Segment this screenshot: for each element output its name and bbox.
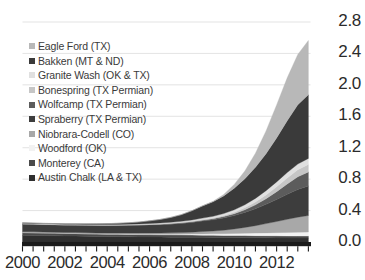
- x-axis-tick-label: 2004: [83, 253, 131, 272]
- y-axis-tick-label: 1.2: [317, 137, 361, 157]
- legend-item-label: Bonespring (TX Permian): [38, 83, 153, 98]
- legend-item: Woodford (OK): [29, 141, 201, 156]
- legend-item: Granite Wash (OK & TX): [29, 68, 201, 83]
- legend-swatch-icon: [29, 43, 35, 49]
- legend-swatch-icon: [29, 72, 35, 78]
- legend-item: Spraberry (TX Permian): [29, 112, 201, 127]
- legend-item: Niobrara-Codell (CO): [29, 127, 201, 142]
- legend-item-label: Bakken (MT & ND): [38, 54, 124, 69]
- y-axis-tick-label: 0.0: [317, 231, 361, 251]
- legend-item-label: Spraberry (TX Permian): [38, 112, 146, 127]
- x-axis-tick-label: 2002: [41, 253, 89, 272]
- legend-item: Bakken (MT & ND): [29, 54, 201, 69]
- legend-swatch-icon: [29, 87, 35, 93]
- legend-swatch-icon: [29, 131, 35, 137]
- legend-item: Bonespring (TX Permian): [29, 83, 201, 98]
- y-axis-tick-label: 0.8: [317, 168, 361, 188]
- x-axis-baseline: [22, 242, 311, 246]
- x-axis-tick-label: 2008: [168, 253, 216, 272]
- legend-swatch-icon: [29, 116, 35, 122]
- x-axis-tick-label: 2010: [210, 253, 258, 272]
- x-axis-tick-label: 2000: [0, 253, 47, 272]
- legend-swatch-icon: [29, 160, 35, 166]
- legend-item-label: Granite Wash (OK & TX): [38, 68, 150, 83]
- legend-swatch-icon: [29, 58, 35, 64]
- stacked-area-chart: Eagle Ford (TX)Bakken (MT & ND)Granite W…: [0, 0, 365, 280]
- legend-item-label: Monterey (CA): [38, 156, 104, 171]
- y-axis-tick-label: 2.4: [317, 42, 361, 62]
- legend-item: Monterey (CA): [29, 156, 201, 171]
- legend-swatch-icon: [29, 145, 35, 151]
- legend-item-label: Wolfcamp (TX Permian): [38, 97, 147, 112]
- x-axis-line: [22, 242, 311, 246]
- y-axis-tick-label: 0.4: [317, 200, 361, 220]
- y-axis-tick-label: 2.0: [317, 74, 361, 94]
- legend-swatch-icon: [29, 102, 35, 108]
- legend-item: Eagle Ford (TX): [29, 39, 201, 54]
- legend-item-label: Niobrara-Codell (CO): [38, 127, 134, 142]
- legend-item: Wolfcamp (TX Permian): [29, 97, 201, 112]
- chart-legend: Eagle Ford (TX)Bakken (MT & ND)Granite W…: [29, 39, 201, 185]
- legend-item-label: Eagle Ford (TX): [38, 39, 110, 54]
- legend-item-label: Austin Chalk (LA & TX): [38, 170, 142, 185]
- legend-item: Austin Chalk (LA & TX): [29, 170, 201, 185]
- x-axis-ticks: [23, 246, 309, 251]
- y-axis-tick-label: 1.6: [317, 105, 361, 125]
- x-axis-tick-label: 2012: [253, 253, 301, 272]
- y-axis-tick-label: 2.8: [317, 11, 361, 31]
- legend-item-label: Woodford (OK): [38, 141, 106, 156]
- x-axis-tick-label: 2006: [126, 253, 174, 272]
- legend-swatch-icon: [29, 175, 35, 181]
